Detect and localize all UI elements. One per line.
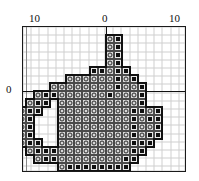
stitch-cell <box>106 131 114 139</box>
stitch-cell <box>26 139 34 147</box>
block-symbol-icon <box>116 85 120 89</box>
ring-symbol-icon <box>116 109 121 114</box>
stitch-cell <box>66 75 74 83</box>
stitch-cell <box>106 147 114 155</box>
block-symbol-icon <box>140 101 144 105</box>
stitch-cell <box>114 147 122 155</box>
block-symbol-icon <box>124 165 128 169</box>
block-symbol-icon <box>132 77 136 81</box>
block-symbol-icon <box>148 141 152 145</box>
ring-symbol-icon <box>92 117 97 122</box>
stitch-cell <box>122 123 130 131</box>
ring-symbol-icon <box>36 157 41 162</box>
ring-symbol-icon <box>52 85 57 90</box>
ring-symbol-icon <box>108 157 113 162</box>
stitch-cell <box>42 147 50 155</box>
ring-symbol-icon <box>68 149 73 154</box>
ring-symbol-icon <box>68 93 73 98</box>
block-symbol-icon <box>36 101 40 105</box>
ring-symbol-icon <box>28 101 33 106</box>
ring-symbol-icon <box>116 141 121 146</box>
stitch-cell <box>114 115 122 123</box>
ring-symbol-icon <box>76 93 81 98</box>
stitch-cell <box>90 131 98 139</box>
stitch-cell <box>34 147 42 155</box>
stitch-cell <box>66 147 74 155</box>
motif-outline-segment <box>25 146 27 156</box>
pattern-chart-figure: 10 0 10 0 <box>0 0 199 181</box>
ring-symbol-icon <box>22 117 25 122</box>
block-symbol-icon <box>44 101 48 105</box>
ring-symbol-icon <box>124 93 129 98</box>
ring-symbol-icon <box>140 133 145 138</box>
stitch-cell <box>90 67 98 75</box>
ring-symbol-icon <box>108 149 113 154</box>
ring-symbol-icon <box>92 101 97 106</box>
ring-symbol-icon <box>60 165 65 170</box>
stitch-cell <box>82 99 90 107</box>
ring-symbol-icon <box>116 149 121 154</box>
stitch-cell <box>90 139 98 147</box>
stitch-cell <box>90 91 98 99</box>
ring-symbol-icon <box>84 133 89 138</box>
ring-symbol-icon <box>108 61 113 66</box>
stitch-cell <box>106 91 114 99</box>
stitch-cell <box>106 83 114 91</box>
block-symbol-icon <box>116 69 120 73</box>
block-symbol-icon <box>116 45 120 49</box>
stitch-cell <box>50 83 58 91</box>
stitch-cell <box>66 83 74 91</box>
stitch-cell <box>98 67 106 75</box>
block-symbol-icon <box>116 53 120 57</box>
stitch-cell <box>58 115 66 123</box>
stitch-cell <box>58 139 66 147</box>
block-symbol-icon <box>156 109 160 113</box>
stitch-cell <box>74 83 82 91</box>
block-symbol-icon <box>28 117 32 121</box>
stitch-cell <box>130 91 138 99</box>
x-axis-tick-label-zero: 0 <box>102 13 108 24</box>
x-axis-tick-label-left: 10 <box>29 13 40 24</box>
ring-symbol-icon <box>68 77 73 82</box>
stitch-cell <box>138 131 146 139</box>
ring-symbol-icon <box>76 133 81 138</box>
stitch-cell <box>106 115 114 123</box>
stitch-cell <box>82 147 90 155</box>
stitch-cell <box>106 123 114 131</box>
ring-symbol-icon <box>68 109 73 114</box>
stitch-cell <box>82 75 90 83</box>
motif-outline-segment <box>97 66 107 68</box>
ring-symbol-icon <box>100 85 105 90</box>
stitch-cell <box>122 147 130 155</box>
stitch-cell <box>90 75 98 83</box>
ring-symbol-icon <box>60 125 65 130</box>
ring-symbol-icon <box>132 85 137 90</box>
block-symbol-icon <box>76 165 80 169</box>
stitch-cell <box>66 115 74 123</box>
block-symbol-icon <box>36 149 40 153</box>
block-symbol-icon <box>148 117 152 121</box>
stitch-cell <box>82 83 90 91</box>
stitch-cell <box>98 91 106 99</box>
block-symbol-icon <box>92 69 96 73</box>
ring-symbol-icon <box>60 157 65 162</box>
stitch-cell <box>74 75 82 83</box>
ring-symbol-icon <box>84 157 89 162</box>
ring-symbol-icon <box>92 125 97 130</box>
ring-symbol-icon <box>28 149 33 154</box>
stitch-cell <box>130 123 138 131</box>
stitch-cell <box>122 139 130 147</box>
ring-symbol-icon <box>76 85 81 90</box>
stitch-cell <box>106 75 114 83</box>
motif-outline-segment <box>57 82 67 84</box>
motif-outline-segment <box>41 106 43 116</box>
ring-symbol-icon <box>84 77 89 82</box>
stitch-cell <box>58 91 66 99</box>
ring-symbol-icon <box>76 101 81 106</box>
stitch-cell <box>130 115 138 123</box>
ring-symbol-icon <box>68 133 73 138</box>
ring-symbol-icon <box>100 117 105 122</box>
ring-symbol-icon <box>108 69 113 74</box>
ring-symbol-icon <box>100 141 105 146</box>
ring-symbol-icon <box>100 149 105 154</box>
